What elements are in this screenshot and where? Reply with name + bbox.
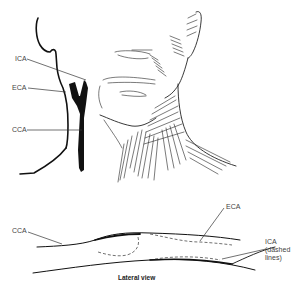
label-eca-lateral: ECA	[226, 203, 240, 211]
label-ica-note-1: (dashed	[265, 246, 290, 254]
label-ica-note-2: lines)	[265, 254, 282, 262]
face-neck-sketch	[99, 11, 236, 182]
label-cca-top: CCA	[12, 126, 27, 134]
lateral-leader-lines	[28, 208, 266, 259]
label-cca-lateral: CCA	[12, 227, 27, 235]
label-eca-top: ECA	[12, 84, 26, 92]
label-ica-top: ICA	[15, 55, 27, 63]
carotid-artery-shape	[69, 80, 88, 172]
lateral-view-dashed-ica	[98, 234, 232, 260]
lateral-view-caption: Lateral view	[118, 274, 155, 282]
lateral-view-vessel	[33, 233, 275, 273]
label-ica-lateral: ICA	[265, 238, 277, 246]
head-profile-outline	[20, 18, 68, 174]
diagram-drawing	[0, 0, 297, 288]
